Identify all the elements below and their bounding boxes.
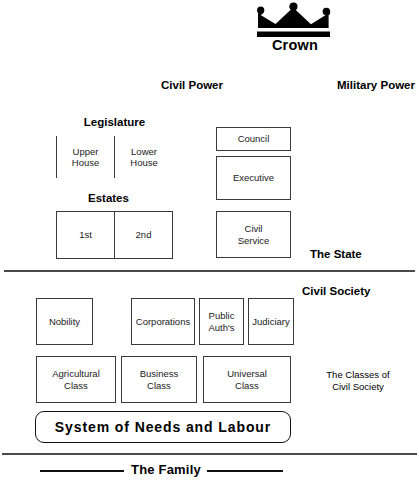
separator-state-civilsociety <box>4 270 415 272</box>
box-council: Council <box>216 127 291 151</box>
universal-class-line2: Class <box>235 380 259 391</box>
label-the-state: The State <box>310 248 362 260</box>
box-corporations: Corporations <box>131 298 195 345</box>
heading-estates: Estates <box>88 192 129 204</box>
hegel-state-diagram: Crown Civil Power Military Power Legisla… <box>0 0 419 485</box>
box-system-of-needs-and-labour: System of Needs and Labour <box>35 411 291 443</box>
separator-civilsociety-family <box>2 453 417 455</box>
family-rule-left <box>40 470 124 472</box>
universal-class-line1: Universal <box>227 368 267 379</box>
box-estate-second: 2nd <box>115 212 172 258</box>
crown-label: Crown <box>245 37 345 53</box>
box-universal-class: Universal Class <box>203 356 291 403</box>
box-lower-house: Lower House <box>115 136 173 178</box>
public-auth-line1: Public <box>209 310 235 321</box>
agricultural-class-line2: Class <box>64 380 88 391</box>
public-auth-line2: Auth's <box>208 322 234 333</box>
heading-civil-power: Civil Power <box>161 79 223 91</box>
box-public-authorities: Public Auth's <box>199 298 244 345</box>
civil-service-line2: Service <box>238 235 270 246</box>
crown-icon <box>252 2 338 38</box>
lower-house-line2: House <box>130 157 157 168</box>
civil-service-line1: Civil <box>245 223 263 234</box>
lower-house-line1: Lower <box>131 146 157 157</box>
box-judiciary: Judiciary <box>248 298 294 345</box>
box-upper-house: Upper House <box>57 136 114 178</box>
box-civil-service: Civil Service <box>216 211 291 258</box>
label-the-family: The Family <box>131 462 201 477</box>
box-agricultural-class: Agricultural Class <box>36 356 116 403</box>
box-executive: Executive <box>216 156 291 200</box>
classes-label-line1: The Classes of <box>326 369 389 380</box>
legislature-title: Legislature <box>56 110 173 136</box>
upper-house-line2: House <box>72 157 99 168</box>
business-class-line1: Business <box>140 368 179 379</box>
box-business-class: Business Class <box>121 356 197 403</box>
heading-military-power: Military Power <box>337 79 415 91</box>
business-class-line2: Class <box>147 380 171 391</box>
family-rule-right <box>207 470 283 472</box>
classes-label-line2: Civil Society <box>332 381 384 392</box>
upper-house-line1: Upper <box>73 146 99 157</box>
label-civil-society: Civil Society <box>302 285 370 297</box>
box-nobility: Nobility <box>36 298 93 345</box>
label-classes-of-civil-society: The Classes of Civil Society <box>308 369 408 393</box>
box-estate-first: 1st <box>57 212 114 258</box>
agricultural-class-line1: Agricultural <box>52 368 100 379</box>
